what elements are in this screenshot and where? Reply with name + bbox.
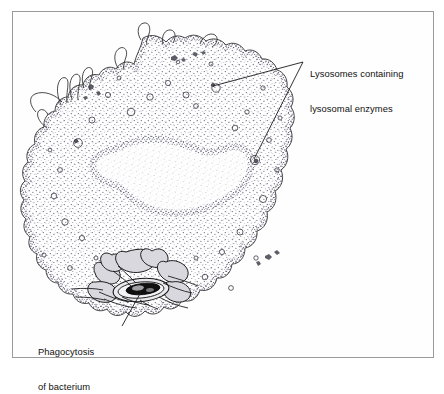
label-lysosomes-line1: Lysosomes containing bbox=[310, 68, 403, 80]
label-phagocytosis-line1: Phagocytosis bbox=[38, 346, 94, 358]
label-phagocytosis: Phagocytosis of bacterium bbox=[38, 323, 94, 394]
label-lysosomes: Lysosomes containing lysosomal enzymes bbox=[310, 45, 403, 138]
label-lysosomes-line2: lysosomal enzymes bbox=[310, 103, 403, 115]
label-phagocytosis-line2: of bacterium bbox=[38, 381, 94, 393]
